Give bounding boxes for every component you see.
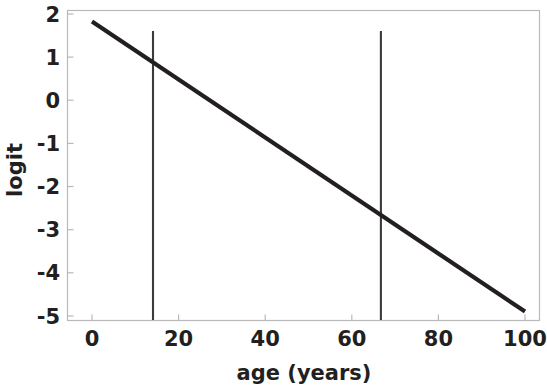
y-tick-label-0: 0 (45, 89, 60, 113)
y-tick-label-1: 1 (45, 46, 60, 70)
logit-regression-line (92, 21, 525, 311)
chart-canvas: 2 1 0 -1 -2 -3 -4 -5 0 20 40 60 80 100 a… (0, 0, 547, 388)
x-tick-label-0: 0 (85, 327, 100, 351)
x-tick-label-100: 100 (503, 327, 547, 351)
y-tick-label-neg3: -3 (37, 218, 60, 242)
y-tick-label-neg2: -2 (37, 175, 60, 199)
x-tick-label-60: 60 (337, 327, 366, 351)
logit-vs-age-chart: 2 1 0 -1 -2 -3 -4 -5 0 20 40 60 80 100 a… (0, 0, 547, 388)
y-axis-ticks (68, 14, 74, 316)
y-tick-label-neg1: -1 (37, 132, 60, 156)
y-axis-title: logit (3, 143, 27, 197)
y-tick-label-2: 2 (45, 3, 60, 27)
y-tick-label-neg5: -5 (37, 305, 60, 329)
x-tick-label-40: 40 (251, 327, 280, 351)
x-axis-ticks (92, 315, 525, 321)
x-tick-label-80: 80 (424, 327, 453, 351)
x-tick-label-20: 20 (164, 327, 193, 351)
y-tick-label-neg4: -4 (37, 261, 60, 285)
x-axis-title: age (years) (237, 361, 372, 385)
